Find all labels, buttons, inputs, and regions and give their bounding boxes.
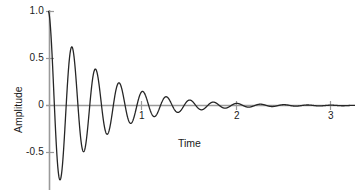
damped-oscillation-chart: 1.0 0.5 0 -0.5 1 2 3 Amplitude Time xyxy=(0,0,355,194)
x-tick-label-2: 2 xyxy=(227,110,247,121)
x-tick-label-1: 1 xyxy=(132,110,152,121)
y-axis-title: Amplitude xyxy=(12,86,24,133)
plot-area xyxy=(0,0,355,194)
y-tick-label-1.0: 1.0 xyxy=(14,5,44,16)
y-tick-label-0.5: 0.5 xyxy=(14,52,44,63)
x-axis-title: Time xyxy=(178,137,201,149)
x-tick-label-3: 3 xyxy=(321,110,341,121)
data-series-line xyxy=(49,12,355,180)
y-tick-label-minus-0.5: -0.5 xyxy=(8,146,44,157)
